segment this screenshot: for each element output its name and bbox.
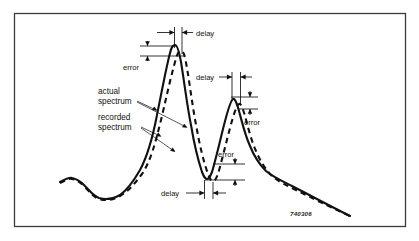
figure-frame [15, 14, 406, 227]
peak1-error-arrow-down-icon [145, 56, 150, 61]
actual-spectrum-label-line1: actual [98, 87, 120, 96]
peak2-error-annotation: error [231, 91, 261, 127]
recorded-spectrum-callout: recorded spectrum [98, 113, 176, 152]
valley-error-arrow-down-icon [233, 180, 238, 185]
figure-container: delay error delay [0, 0, 419, 241]
peak1-delay-annotation: delay [157, 27, 214, 54]
recorded-spectrum-label-line1: recorded [98, 113, 131, 122]
peak2-error-arrow-down-icon [248, 109, 253, 114]
peak1-error-label: error [123, 63, 140, 72]
actual-spectrum-arrow-far-icon [182, 124, 188, 128]
valley-delay-annotation: delay [161, 180, 226, 199]
peak1-error-annotation: error [123, 41, 184, 72]
recorded-spectrum-label-line2: spectrum [98, 123, 132, 132]
valley-error-annotation: error [205, 150, 245, 186]
peak2-error-label: error [244, 118, 261, 127]
peak2-delay-arrow-left-icon [227, 75, 232, 80]
peak1-delay-label: delay [196, 29, 214, 38]
peak2-delay-annotation: delay [196, 72, 252, 105]
peak2-delay-label: delay [196, 73, 214, 82]
peak1-delay-arrow-right-icon [182, 30, 187, 35]
peak2-delay-arrow-right-icon [241, 75, 246, 80]
peak1-delay-arrow-left-icon [169, 30, 174, 35]
valley-error-arrow-up-icon [233, 159, 238, 164]
actual-spectrum-label-line2: spectrum [98, 97, 132, 106]
peak1-error-arrow-up-icon [145, 41, 150, 46]
valley-delay-label: delay [161, 189, 179, 198]
recorded-spectrum-arrow-far-icon [170, 147, 176, 152]
valley-delay-arrow-left-icon [199, 191, 204, 196]
valley-error-label: error [218, 150, 235, 159]
actual-spectrum-leader-far [137, 102, 186, 127]
figure-id-caption: 740306 [290, 210, 312, 217]
valley-delay-arrow-right-icon [213, 191, 218, 196]
spectrum-distortion-diagram: delay error delay [0, 0, 419, 241]
peak2-error-arrow-up-icon [248, 92, 253, 97]
